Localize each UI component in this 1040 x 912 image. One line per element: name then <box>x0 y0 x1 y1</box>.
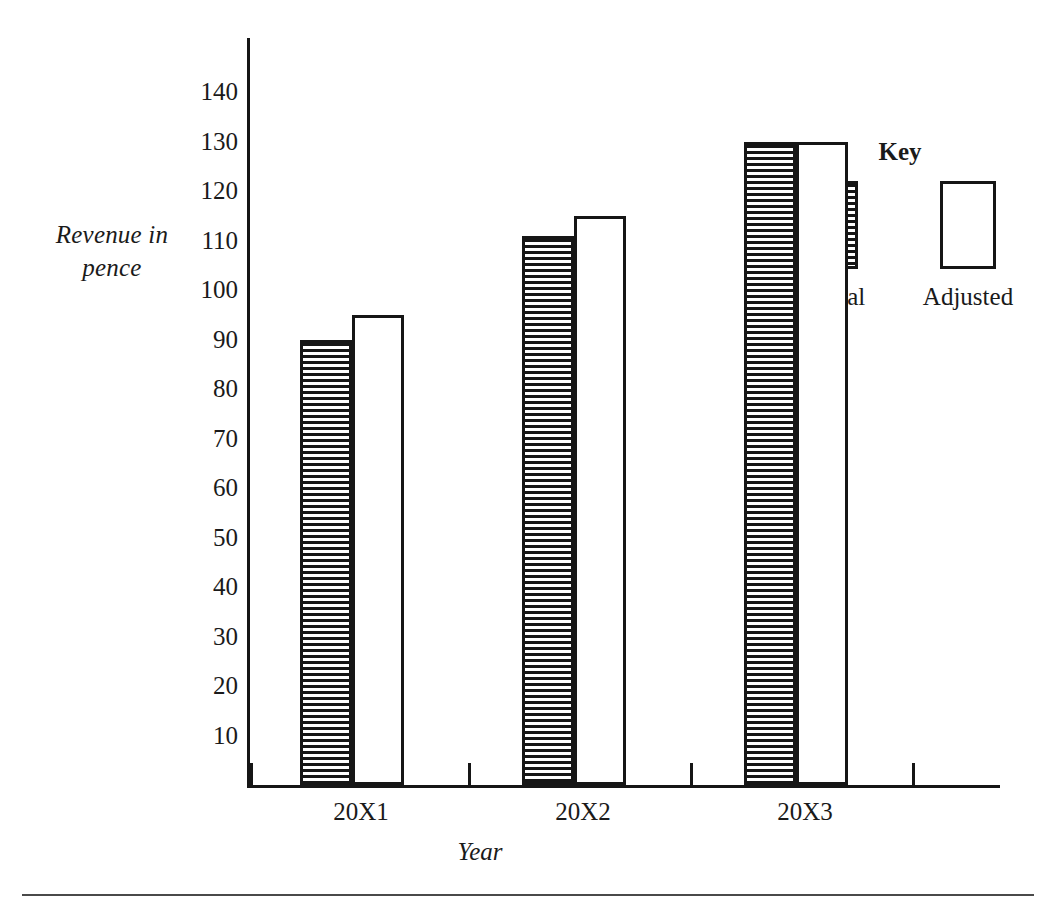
bar-chart-figure: Revenue in pence 10203040506070809010011… <box>0 0 1040 912</box>
bar-20x3-adjusted <box>796 142 848 786</box>
bar-20x1-actual <box>300 340 352 786</box>
x-axis-title: Year <box>400 838 560 866</box>
x-axis-category-divider <box>912 763 915 785</box>
bar-20x2-actual <box>522 236 574 785</box>
bar-20x2-adjusted <box>574 216 626 785</box>
plot-area: 20X120X220X3 <box>0 0 1040 912</box>
legend-swatch-adjusted <box>940 181 996 269</box>
bar-20x3-actual <box>744 142 796 786</box>
x-tick-label-20x1: 20X1 <box>281 798 441 826</box>
x-axis-category-divider <box>690 763 693 785</box>
bottom-rule <box>22 894 1034 896</box>
bar-20x1-adjusted <box>352 315 404 785</box>
x-axis-category-divider <box>250 763 253 785</box>
x-tick-label-20x2: 20X2 <box>503 798 663 826</box>
legend-label-adjusted: Adjusted <box>908 283 1028 311</box>
x-tick-label-20x3: 20X3 <box>725 798 885 826</box>
x-axis-category-divider <box>468 763 471 785</box>
